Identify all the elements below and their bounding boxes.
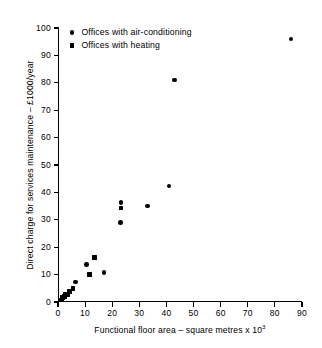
y-tick [54,274,59,275]
y-tick [54,247,59,248]
x-axis-title-exponent: 3 [262,323,266,330]
y-tick [54,82,59,83]
data-point [118,220,123,225]
data-point [289,37,294,42]
data-point [167,184,172,189]
legend-label-air-conditioning: Offices with air-conditioning [81,26,191,39]
x-tick-label: 10 [75,309,95,318]
data-point [84,262,89,267]
x-tick [274,302,275,307]
x-tick-label: 20 [102,309,122,318]
x-tick-label: 70 [238,309,258,318]
y-tick [54,192,59,193]
x-tick-label: 60 [211,309,231,318]
square-marker-icon [70,43,74,47]
y-tick [54,55,59,56]
x-tick [85,302,86,307]
x-axis-title-text: Functional floor area – square metres x … [94,325,262,335]
data-point [87,272,92,277]
x-axis-line [58,301,302,302]
data-point [119,200,124,205]
circle-marker-icon [70,30,74,34]
x-axis-title: Functional floor area – square metres x … [58,324,302,336]
x-tick [112,302,113,307]
data-point [145,204,150,209]
x-tick [139,302,140,307]
y-tick [54,110,59,111]
data-point [119,206,124,211]
x-tick [301,302,302,307]
x-tick-label: 50 [184,309,204,318]
y-axis-title: Direct charge for services maintenance –… [24,28,36,302]
legend: Offices with air-conditioning Offices wi… [70,26,192,52]
x-tick-label: 90 [292,309,312,318]
x-tick [166,302,167,307]
legend-item-air-conditioning: Offices with air-conditioning [70,26,192,39]
x-tick [57,302,58,307]
y-tick [54,219,59,220]
x-tick-label: 40 [156,309,176,318]
x-tick [193,302,194,307]
data-point [71,286,76,291]
x-tick [247,302,248,307]
legend-label-heating: Offices with heating [81,39,160,52]
y-tick [54,137,59,138]
plot-area: 0102030405060708090100 01020304050607080… [58,28,302,302]
x-tick [220,302,221,307]
y-tick [54,27,59,28]
x-tick-label: 30 [129,309,149,318]
data-point [102,270,107,275]
y-tick [54,164,59,165]
x-tick-label: 80 [265,309,285,318]
legend-item-heating: Offices with heating [70,39,192,52]
data-point [92,255,97,260]
data-point [73,280,78,285]
scatter-chart-figure: 0102030405060708090100 01020304050607080… [0,0,322,348]
data-point [172,78,177,83]
x-tick-label: 0 [48,309,68,318]
